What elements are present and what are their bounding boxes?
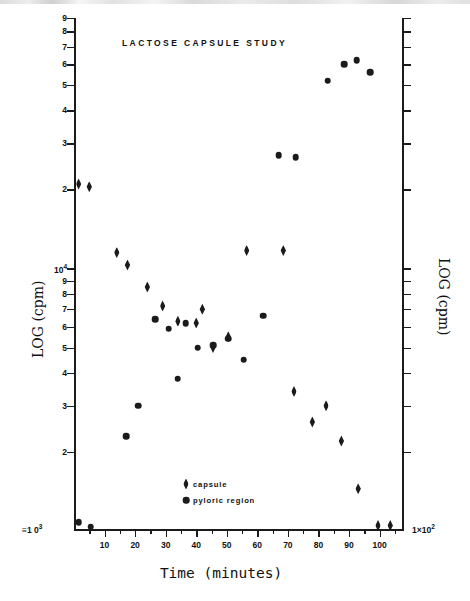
tick-left <box>67 85 74 86</box>
tick-right <box>404 110 411 111</box>
data-point-diamond <box>200 304 205 315</box>
x-tick-major <box>105 530 106 537</box>
data-point-circle <box>182 320 189 327</box>
data-point-diamond <box>175 316 180 327</box>
x-tick-label: 60 <box>253 541 262 550</box>
x-tick-minor <box>150 530 151 534</box>
data-point-circle <box>123 433 130 440</box>
y-tick-label-left: 4 <box>62 369 67 378</box>
data-point-diamond <box>87 181 92 192</box>
x-tick-label: 30 <box>161 541 170 550</box>
tick-right <box>404 348 411 349</box>
y-tick-label-left: 8 <box>62 27 67 36</box>
y-tick-label-left: 2 <box>62 185 67 194</box>
tick-left <box>67 294 74 295</box>
legend-marker-circle-icon <box>183 497 190 504</box>
tick-left <box>67 452 74 453</box>
data-point-diamond <box>194 317 199 328</box>
x-tick-minor <box>212 530 213 534</box>
y-axis-right-base-label: 1×102 <box>412 524 435 534</box>
data-point-circle <box>210 342 217 349</box>
x-tick-minor <box>334 530 335 534</box>
legend-label: capsule <box>193 480 227 489</box>
x-tick-label: 90 <box>344 541 353 550</box>
data-point-circle <box>75 519 82 526</box>
x-axis-line <box>74 529 404 531</box>
tick-right <box>404 268 411 269</box>
tick-right <box>404 294 411 295</box>
data-point-circle <box>367 69 374 76</box>
x-tick-major <box>288 530 289 537</box>
x-axis-title: Time (minutes) <box>160 565 282 581</box>
y-tick-label-left: 4 <box>62 106 67 115</box>
y-tick-label-left: 104 <box>54 264 67 274</box>
tick-right <box>404 31 411 32</box>
data-point-diamond <box>114 247 119 258</box>
data-point-circle <box>175 376 182 383</box>
data-point-diamond <box>281 245 286 256</box>
tick-left <box>67 31 74 32</box>
scan-edge-artifact <box>0 0 470 4</box>
data-point-circle <box>353 57 360 64</box>
y-tick-label-left: 5 <box>62 81 67 90</box>
x-tick-label: 80 <box>314 541 323 550</box>
data-point-circle <box>260 313 267 320</box>
tick-right <box>404 406 411 407</box>
tick-right <box>404 452 411 453</box>
x-tick-label: 50 <box>222 541 231 550</box>
y-axis-right-line <box>402 18 404 531</box>
y-axis-right-title: LOG (cpm) <box>436 258 452 335</box>
data-point-diamond <box>310 417 315 428</box>
data-point-circle <box>275 152 282 159</box>
x-tick-minor <box>120 530 121 534</box>
data-point-circle <box>292 154 299 161</box>
data-point-diamond <box>145 282 150 293</box>
tick-left <box>67 373 74 374</box>
x-tick-minor <box>89 530 90 534</box>
tick-left <box>67 189 74 190</box>
y-tick-label-left: 7 <box>62 43 67 52</box>
data-point-diamond <box>125 260 130 271</box>
x-tick-major <box>257 530 258 537</box>
tick-left <box>67 268 74 269</box>
x-tick-major <box>166 530 167 537</box>
tick-left <box>67 348 74 349</box>
tick-left <box>67 47 74 48</box>
y-tick-label-left: 8 <box>62 290 67 299</box>
data-point-circle <box>152 316 159 323</box>
data-point-circle <box>135 402 142 409</box>
data-point-circle <box>324 77 331 84</box>
data-point-circle <box>194 344 201 351</box>
y-axis-left-base-label: ≡1 03 <box>22 524 42 534</box>
y-tick-label-left: 3 <box>62 139 67 148</box>
x-tick-label: 10 <box>100 541 109 550</box>
tick-left <box>67 110 74 111</box>
data-point-circle <box>225 335 232 342</box>
data-point-circle <box>341 61 348 68</box>
x-tick-major <box>349 530 350 537</box>
x-tick-major <box>227 530 228 537</box>
legend-label: pyloric region <box>193 496 255 505</box>
x-tick-major <box>196 530 197 537</box>
data-point-circle <box>165 325 172 332</box>
x-tick-major <box>318 530 319 537</box>
data-point-diamond <box>244 245 249 256</box>
data-point-circle <box>88 523 95 530</box>
tick-right <box>404 189 411 190</box>
x-tick-minor <box>364 530 365 534</box>
tick-left <box>67 309 74 310</box>
x-tick-minor <box>181 530 182 534</box>
y-tick-label-left: 6 <box>62 323 67 332</box>
tick-right <box>404 143 411 144</box>
legend-marker-diamond-icon <box>183 479 188 490</box>
x-tick-minor <box>273 530 274 534</box>
data-point-diamond <box>291 386 296 397</box>
data-point-diamond <box>76 178 81 189</box>
tick-left <box>67 406 74 407</box>
y-tick-label-left: 5 <box>62 344 67 353</box>
y-tick-label-left: 9 <box>62 14 67 23</box>
x-tick-major <box>135 530 136 537</box>
x-tick-label: 40 <box>191 541 200 550</box>
tick-left <box>67 64 74 65</box>
y-tick-label-left: 3 <box>62 402 67 411</box>
